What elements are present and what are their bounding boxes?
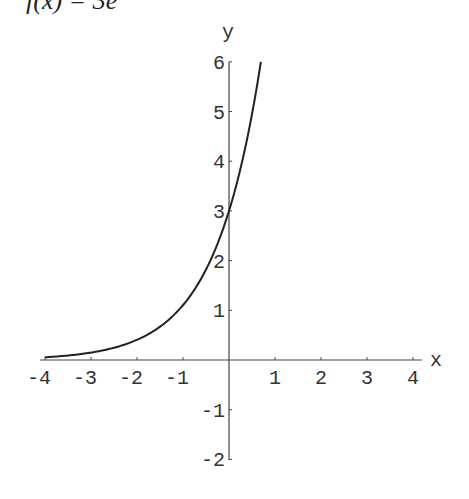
x-axis-label: x [430,349,442,372]
x-ticks: -4-3-2-11234 [27,357,419,390]
y-tick-label: 4 [213,151,225,174]
x-tick-label: -4 [27,367,51,390]
y-tick-label: -1 [201,400,225,423]
x-tick-label: 3 [361,367,373,390]
y-tick-label: 2 [213,251,225,274]
y-tick-label: 3 [213,201,225,224]
y-tick-label: 5 [213,102,225,125]
y-tick-label: 6 [213,52,225,75]
x-tick-label: -3 [73,367,97,390]
x-tick-label: 1 [269,367,281,390]
plot-area: -4-3-2-11234 -2-1123456 x y [0,0,469,499]
y-tick-label: -2 [201,449,225,472]
y-axis-label: y [222,21,234,44]
x-tick-label: -1 [165,367,189,390]
x-tick-label: 4 [407,367,419,390]
x-tick-label: 2 [315,367,327,390]
y-ticks: -2-1123456 [201,52,232,473]
y-tick-label: 1 [213,300,225,323]
x-tick-label: -2 [119,367,143,390]
